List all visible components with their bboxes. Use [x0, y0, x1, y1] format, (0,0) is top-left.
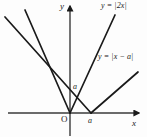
curve-label-abs-2x: y = |2x| [101, 2, 127, 10]
origin-label: O [61, 115, 68, 124]
x-axis-label: x [132, 119, 136, 128]
curve-xa-right-branch [91, 72, 138, 113]
curve-label-abs-x-minus-a: y = |x − a| [98, 53, 133, 61]
y-axis-tick-label-a: a [73, 83, 77, 91]
curve-xa-left-branch [5, 17, 91, 113]
y-axis-label: y [60, 2, 64, 11]
graph-canvas [0, 0, 147, 137]
math-figure: y x O a a y = |2x| y = |x − a| [0, 0, 147, 137]
x-axis-tick-label-a: a [88, 117, 92, 125]
curve-2x-left-branch [25, 10, 70, 113]
